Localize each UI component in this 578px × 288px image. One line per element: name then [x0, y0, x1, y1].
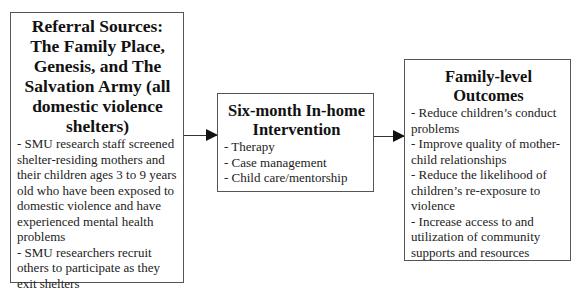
outcome-item: - Increase access to and utilization of …: [411, 214, 566, 261]
intervention-box: Six-month In-home Intervention - Therapy…: [217, 93, 374, 192]
intervention-list: - Therapy - Case management - Child care…: [224, 139, 369, 186]
outcomes-list: - Reduce children’s conduct problems - I…: [411, 105, 566, 260]
referral-sources-list: - SMU research staff screened shelter-re…: [17, 136, 178, 288]
intervention-item: - Case management: [224, 155, 369, 171]
referral-sources-title: Referral Sources: The Family Place, Gene…: [17, 16, 178, 136]
arrow-intervention-to-outcomes: [374, 136, 404, 137]
intervention-title: Six-month In-home Intervention: [224, 101, 369, 139]
outcome-item: - Reduce the likelihood of children’s re…: [411, 167, 566, 214]
outcome-item: - Reduce children’s conduct problems: [411, 105, 566, 136]
arrow-referral-to-intervention: [184, 135, 217, 136]
referral-item: - SMU research staff screened shelter-re…: [17, 136, 178, 245]
intervention-item: - Child care/mentorship: [224, 170, 369, 186]
referral-sources-box: Referral Sources: The Family Place, Gene…: [10, 12, 184, 283]
referral-item: - SMU researchers recruit others to part…: [17, 245, 178, 288]
outcomes-title: Family-level Outcomes: [411, 67, 566, 105]
outcomes-box: Family-level Outcomes - Reduce children’…: [404, 59, 571, 261]
outcome-item: - Improve quality of mother-child relati…: [411, 136, 566, 167]
intervention-item: - Therapy: [224, 139, 369, 155]
